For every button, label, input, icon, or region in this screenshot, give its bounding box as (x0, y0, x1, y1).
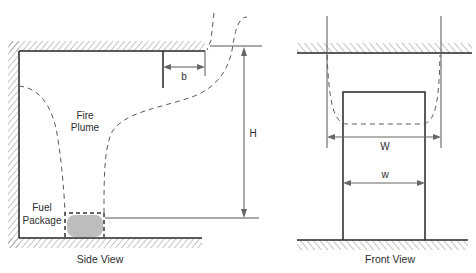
dimension-b: b (163, 51, 205, 82)
arrowhead-up-icon (241, 47, 247, 56)
floor-hatching (8, 238, 202, 248)
fuel-package (67, 215, 103, 237)
w-label: w (380, 169, 389, 180)
wall-hatching (8, 41, 19, 248)
arrowhead-right-icon (417, 180, 425, 186)
fuel-package-front (343, 92, 425, 240)
fire-plume-label-line2: Plume (71, 122, 100, 133)
front-ceiling-hatching (297, 43, 472, 53)
plume-left-boundary (19, 86, 65, 213)
H-label: H (249, 128, 256, 139)
plume-upper-edge (207, 13, 214, 50)
front-plume-outline (327, 55, 440, 124)
front-view: W w Front View (297, 16, 472, 265)
arrowhead-right-icon (433, 134, 441, 140)
front-view-caption: Front View (365, 253, 415, 265)
b-label: b (181, 71, 187, 82)
side-view-caption: Side View (77, 253, 124, 265)
fuel-package-label-line1: Fuel (32, 202, 51, 213)
front-floor-hatching (297, 240, 468, 250)
ceiling-hatching (9, 41, 205, 51)
fire-plume-diagram: b H Fire Plume Fuel Package Side View (0, 0, 476, 273)
arrowhead-left-icon (163, 64, 171, 70)
fire-plume-label-line1: Fire (76, 110, 94, 121)
side-view: b H Fire Plume Fuel Package Side View (8, 13, 262, 265)
arrowhead-right-icon (197, 64, 205, 70)
dimension-W: W (327, 134, 441, 152)
W-label: W (380, 141, 390, 152)
arrowhead-left-icon (327, 134, 335, 140)
dimension-w: w (343, 169, 425, 186)
fuel-package-label-line2: Package (23, 215, 62, 226)
arrowhead-left-icon (343, 180, 351, 186)
arrowhead-down-icon (241, 209, 247, 218)
